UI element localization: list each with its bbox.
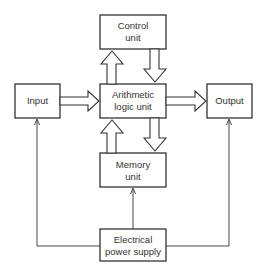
computer-block-diagram: Control unit Input Arithmetic logic unit… — [0, 0, 266, 273]
alu-label-line2: logic unit — [114, 101, 152, 112]
memory-to-alu-arrow — [101, 120, 123, 153]
output-label: Output — [215, 95, 244, 106]
memory-unit-label-line1: Memory — [116, 159, 151, 170]
power-supply-label-line1: Electrical — [114, 234, 153, 245]
input-to-alu-arrow — [60, 91, 99, 111]
alu-to-memory-arrow — [144, 118, 166, 151]
control-unit-label-line2: unit — [125, 32, 141, 43]
input-label: Input — [27, 95, 48, 106]
alu-label-line1: Arithmetic — [112, 89, 154, 100]
power-supply-label-line2: power supply — [105, 246, 161, 257]
memory-unit-label-line2: unit — [125, 171, 141, 182]
power-to-output-line — [166, 119, 232, 246]
power-to-memory-line — [131, 188, 136, 229]
control-to-alu-arrow — [144, 49, 166, 82]
power-to-input-line — [35, 119, 101, 246]
alu-to-control-arrow — [101, 51, 123, 84]
alu-to-output-arrow — [166, 91, 206, 111]
control-unit-label-line1: Control — [118, 20, 149, 31]
